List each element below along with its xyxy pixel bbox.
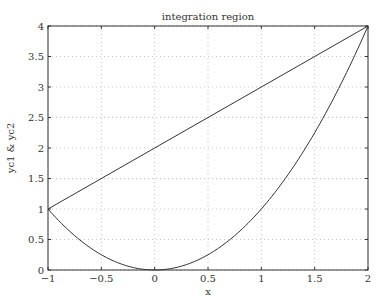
chart: −1−0.500.511.52 00.511.522.533.54 integr… <box>0 0 388 306</box>
y-tick-label: 3.5 <box>28 51 44 62</box>
x-tick-label: 0.5 <box>200 273 216 284</box>
y-tick-label: 0 <box>38 265 44 276</box>
x-tick-label: 1 <box>258 273 264 284</box>
y-tick-label: 2 <box>38 143 44 154</box>
y-axis-ticks: 00.511.522.533.54 <box>28 21 368 276</box>
y-axis-label: yc1 & yc2 <box>5 123 16 174</box>
x-tick-label: 0 <box>151 273 157 284</box>
y-tick-label: 0.5 <box>28 234 44 245</box>
chart-title: integration region <box>162 11 255 22</box>
x-tick-label: 1.5 <box>307 273 323 284</box>
grid-lines <box>48 26 368 270</box>
x-axis-label: x <box>205 286 211 297</box>
y-tick-label: 1.5 <box>28 173 44 184</box>
x-tick-label: 2 <box>365 273 371 284</box>
x-axis-ticks: −1−0.500.511.52 <box>41 26 372 284</box>
y-tick-label: 1 <box>38 204 44 215</box>
y-tick-label: 3 <box>38 82 44 93</box>
y-tick-label: 4 <box>38 21 44 32</box>
x-tick-label: −0.5 <box>89 273 113 284</box>
y-tick-label: 2.5 <box>28 112 44 123</box>
